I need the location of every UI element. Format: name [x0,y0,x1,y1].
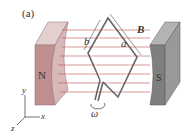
side-b-label: b [84,36,90,47]
south-label: S [156,73,162,83]
north-magnet [35,22,68,105]
side-a-label: a [121,38,127,49]
south-magnet [150,22,180,105]
panel-label: (a) [22,8,34,19]
dimension-arrows [84,14,141,55]
omega-label: ω [91,109,98,119]
north-label: N [38,70,46,81]
y-axis-label: y [22,86,26,95]
rotating-loop [88,18,137,101]
field-label: B [137,24,144,35]
z-axis-label: z [11,124,15,133]
x-axis-label: x [41,112,45,121]
